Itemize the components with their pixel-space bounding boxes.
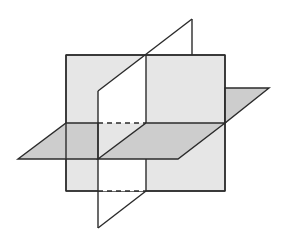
horizontal-plane-right — [225, 88, 269, 123]
horizontal-plane-left — [18, 123, 98, 159]
intersecting-planes-diagram — [0, 0, 289, 246]
oblique-plane-bottom-edge — [98, 191, 146, 228]
